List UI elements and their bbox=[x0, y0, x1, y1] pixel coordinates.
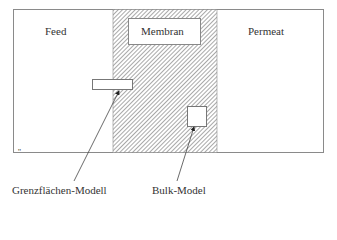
interface-model-label: Grenzflächen-Modell bbox=[12, 184, 107, 196]
interface-model-box bbox=[93, 80, 133, 90]
permeate-label: Permeat bbox=[248, 25, 284, 37]
tick-mark: '' bbox=[18, 147, 21, 159]
feed-label: Feed bbox=[45, 25, 66, 37]
membrane-label: Membran bbox=[141, 25, 184, 37]
bulk-model-box bbox=[188, 107, 207, 127]
bulk-model-label: Bulk-Model bbox=[152, 184, 206, 196]
